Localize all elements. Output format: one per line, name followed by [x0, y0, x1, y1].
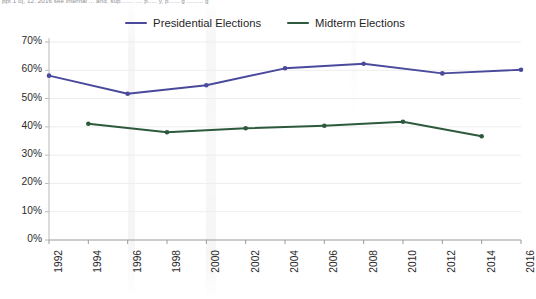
data-point[interactable]	[361, 61, 366, 66]
legend-swatch-presidential	[125, 22, 147, 24]
legend-swatch-midterm	[287, 22, 309, 24]
x-tick-label: 2004	[289, 250, 300, 273]
x-tick-label: 2016	[525, 250, 536, 273]
legend-item-presidential[interactable]: Presidential Elections	[125, 17, 261, 29]
legend-label-presidential: Presidential Elections	[153, 17, 261, 29]
data-point[interactable]	[125, 91, 130, 96]
data-point[interactable]	[165, 130, 170, 135]
x-tick-label: 2000	[210, 250, 221, 273]
x-tick-label: 1992	[53, 250, 64, 273]
data-point[interactable]	[479, 134, 484, 139]
x-tick-label: 1994	[92, 250, 103, 273]
chart-legend: Presidential Elections Midterm Elections	[0, 14, 530, 32]
x-tick-label: 1998	[171, 250, 182, 273]
x-tick-label: 2002	[250, 250, 261, 273]
data-point[interactable]	[401, 119, 406, 124]
data-point[interactable]	[204, 83, 209, 88]
plot-area	[0, 36, 530, 246]
x-axis-tick-labels: 1992199419961998200020022004200620082010…	[0, 246, 530, 299]
data-point[interactable]	[440, 71, 445, 76]
x-tick-label: 2014	[486, 250, 497, 273]
x-tick-label: 1996	[132, 250, 143, 273]
data-point[interactable]	[47, 73, 52, 78]
data-point[interactable]	[283, 66, 288, 71]
data-point[interactable]	[86, 121, 91, 126]
x-tick-label: 2008	[368, 250, 379, 273]
data-point[interactable]	[519, 67, 524, 72]
x-tick-label: 2012	[446, 250, 457, 273]
chart-svg	[0, 36, 530, 246]
data-point[interactable]	[322, 123, 327, 128]
legend-item-midterm[interactable]: Midterm Elections	[287, 17, 405, 29]
x-tick-label: 2006	[328, 250, 339, 273]
legend-label-midterm: Midterm Elections	[315, 17, 405, 29]
series-line-midterm	[88, 122, 481, 136]
cropped-caption-text: ppt 1 o], 12. 2016 see internal ... and,…	[2, 0, 422, 5]
data-point[interactable]	[243, 126, 248, 131]
x-tick-label: 2010	[407, 250, 418, 273]
